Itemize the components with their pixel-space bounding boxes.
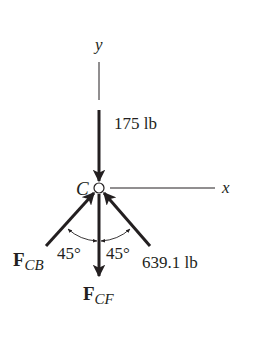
x-axis-label: x	[221, 178, 230, 197]
applied-load-label: 175 lb	[114, 114, 157, 133]
joint-c	[94, 183, 104, 193]
angle-arc-left	[68, 229, 97, 241]
angle-label-right: 45°	[106, 244, 130, 263]
angle-label-left: 45°	[57, 244, 81, 263]
force-cb-label: FCB	[13, 249, 44, 273]
joint-label: C	[76, 178, 89, 199]
force-ca-arrow	[104, 193, 150, 246]
force-cf-label: FCF	[83, 283, 115, 307]
free-body-diagram: y 175 lb C x FCB 639.1 lb FCF 45° 45°	[0, 0, 262, 344]
y-axis-label: y	[93, 35, 103, 54]
angle-arc-right	[101, 229, 130, 241]
force-ca-label: 639.1 lb	[142, 253, 198, 272]
force-cb-arrow	[46, 193, 94, 246]
